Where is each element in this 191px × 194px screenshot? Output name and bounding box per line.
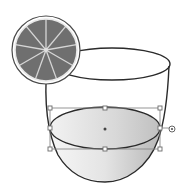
handle-middle-left[interactable]	[48, 126, 52, 130]
handle-bottom-right[interactable]	[158, 147, 162, 151]
rotate-handle-icon[interactable]	[169, 126, 175, 132]
handle-top-center[interactable]	[103, 106, 107, 110]
handle-bottom-left[interactable]	[48, 147, 52, 151]
liquid-shape[interactable]	[50, 107, 160, 181]
orange-slice-icon[interactable]	[12, 16, 80, 84]
center-point-icon	[104, 128, 107, 131]
handle-middle-right[interactable]	[158, 126, 162, 130]
handle-top-left[interactable]	[48, 106, 52, 110]
handle-top-right[interactable]	[158, 106, 162, 110]
handle-bottom-center[interactable]	[103, 147, 107, 151]
illustration-canvas[interactable]	[0, 0, 191, 194]
